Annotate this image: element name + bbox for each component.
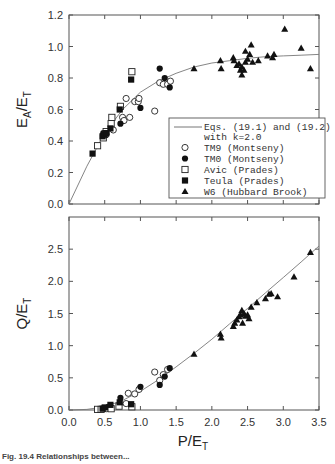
x-tick-label: 2.5 bbox=[240, 416, 255, 428]
filled-square-marker bbox=[107, 402, 113, 408]
filled-circle-marker bbox=[157, 382, 163, 388]
filled-circle-marker bbox=[117, 121, 123, 127]
filled-circle-marker bbox=[137, 105, 143, 111]
open-circle-marker bbox=[152, 108, 158, 114]
filled-square-marker bbox=[102, 404, 108, 410]
legend-label: TM9 (Montseny) bbox=[204, 143, 285, 154]
x-tick-label: 3.5 bbox=[311, 416, 326, 428]
legend-label: Teula (Prades) bbox=[204, 176, 285, 187]
y-tick-label: 0.0 bbox=[48, 404, 63, 416]
open-square-marker bbox=[182, 166, 188, 172]
open-circle-marker bbox=[136, 95, 142, 101]
legend-label: TM0 (Montseny) bbox=[204, 154, 285, 165]
filled-triangle-marker bbox=[242, 48, 249, 54]
open-circle-marker bbox=[127, 114, 133, 120]
filled-circle-marker bbox=[182, 155, 188, 161]
y-axis-label: EA/ET bbox=[13, 91, 33, 128]
series-w6 bbox=[191, 26, 314, 78]
y-tick-label: 2.5 bbox=[48, 243, 63, 255]
open-circle-marker bbox=[167, 78, 173, 84]
filled-circle-marker bbox=[137, 384, 143, 390]
filled-square-marker bbox=[117, 399, 123, 405]
filled-triangle-marker bbox=[291, 273, 298, 279]
plot-frame bbox=[69, 217, 319, 410]
filled-triangle-marker bbox=[281, 26, 288, 32]
y-tick-label: 0.6 bbox=[48, 104, 63, 116]
open-square-marker bbox=[94, 143, 100, 149]
filled-circle-marker bbox=[167, 365, 173, 371]
series-w6 bbox=[191, 249, 314, 357]
y-tick-label: 0.5 bbox=[48, 372, 63, 384]
filled-circle-marker bbox=[157, 65, 163, 71]
legend: Eqs. (19.1) and (19.2)with k=2.0TM9 (Mon… bbox=[169, 118, 331, 198]
filled-circle-marker bbox=[167, 84, 173, 90]
filled-square-marker bbox=[117, 106, 123, 112]
y-tick-label: 1.2 bbox=[48, 9, 63, 21]
legend-label: Avic (Prades) bbox=[204, 165, 279, 176]
filled-square-marker bbox=[89, 151, 95, 157]
filled-triangle-marker bbox=[218, 65, 225, 71]
y-tick-label: 0.4 bbox=[48, 135, 63, 147]
x-axis-label: P/ET bbox=[178, 432, 208, 452]
y-axis-label: Q/ET bbox=[13, 298, 33, 330]
filled-triangle-marker bbox=[239, 320, 246, 326]
legend-label: W6 (Hubbard Brook) bbox=[204, 187, 308, 198]
figure: 0.00.20.40.60.81.01.2EA/ETEqs. (19.1) an… bbox=[0, 0, 335, 464]
open-circle-marker bbox=[152, 369, 158, 375]
filled-square-marker bbox=[128, 401, 134, 407]
y-tick-label: 0.2 bbox=[48, 167, 63, 179]
y-tick-label: 0.0 bbox=[48, 198, 63, 210]
x-tick-label: 0.0 bbox=[61, 416, 76, 428]
filled-square-marker bbox=[107, 125, 113, 131]
x-tick-label: 3.0 bbox=[276, 416, 291, 428]
filled-triangle-marker bbox=[271, 51, 278, 57]
y-tick-label: 0.8 bbox=[48, 72, 63, 84]
filled-triangle-marker bbox=[249, 59, 256, 65]
y-tick-label: 1.0 bbox=[48, 41, 63, 53]
filled-circle-marker bbox=[162, 75, 168, 81]
filled-triangle-marker bbox=[217, 57, 224, 63]
filled-triangle-marker bbox=[248, 41, 255, 47]
filled-triangle-marker bbox=[274, 293, 281, 299]
model-curve bbox=[69, 246, 319, 410]
legend-label-cont: with k=2.0 bbox=[204, 132, 262, 143]
open-square-marker bbox=[109, 114, 115, 120]
filled-triangle-marker bbox=[264, 52, 271, 58]
y-tick-label: 1.0 bbox=[48, 340, 63, 352]
x-tick-label: 1.5 bbox=[168, 416, 183, 428]
y-tick-label: 2.0 bbox=[48, 275, 63, 287]
y-tick-label: 1.5 bbox=[48, 308, 63, 320]
filled-triangle-marker bbox=[307, 65, 314, 71]
x-tick-label: 2.0 bbox=[204, 416, 219, 428]
open-square-marker bbox=[129, 69, 135, 75]
filled-square-marker bbox=[182, 177, 188, 183]
open-circle-marker bbox=[123, 95, 129, 101]
open-circle-marker bbox=[125, 390, 131, 396]
x-tick-label: 0.5 bbox=[97, 416, 112, 428]
filled-square-marker bbox=[128, 76, 134, 82]
x-tick-label: 1.0 bbox=[133, 416, 148, 428]
top-panel: 0.00.20.40.60.81.01.2EA/ETEqs. (19.1) an… bbox=[13, 9, 331, 210]
filled-triangle-marker bbox=[298, 44, 305, 50]
open-circle-marker bbox=[182, 144, 188, 150]
figure-caption: Fig. 19.4 Relationships between... bbox=[2, 452, 130, 461]
filled-triangle-marker bbox=[248, 303, 255, 309]
bottom-panel: 0.00.51.01.52.02.50.00.51.01.52.02.53.03… bbox=[13, 217, 327, 452]
filled-circle-marker bbox=[162, 373, 168, 379]
